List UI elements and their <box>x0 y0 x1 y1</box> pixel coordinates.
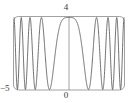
y-max-tick-label: 4 <box>0 3 132 12</box>
chart-figure: 4 0 −5 <box>0 0 132 103</box>
chart-plot-area <box>0 0 132 103</box>
x-min-tick-label: −5 <box>0 84 14 93</box>
x-origin-tick-label: 0 <box>0 91 132 100</box>
